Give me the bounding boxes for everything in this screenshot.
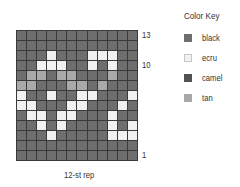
chart-cell [98,71,107,80]
chart-cell [17,91,26,100]
chart-cell [37,101,46,110]
chart-cell [67,121,76,130]
chart-cell [17,51,26,60]
chart-cell [88,111,97,120]
row-number-10: 10 [142,60,151,70]
chart-cell [37,91,46,100]
chart-cell [27,111,36,120]
chart-cell [118,71,127,80]
chart-cell [108,101,117,110]
chart-cell [118,91,127,100]
chart-cell [88,141,97,150]
chart-cell [88,151,97,160]
chart-cell [37,71,46,80]
chart-cell [108,41,117,50]
chart-cell [128,101,137,110]
chart-cell [57,111,66,120]
camel-swatch-icon [184,74,192,82]
chart-cell [57,31,66,40]
chart-cell [67,151,76,160]
chart-cell [67,101,76,110]
chart-cell [108,131,117,140]
chart-cell [37,111,46,120]
chart-cell [67,51,76,60]
chart-cell [118,41,127,50]
key-item-camel: camel [184,68,226,88]
chart-cell [27,101,36,110]
color-key-title: Color Key [184,10,220,21]
chart-cell [118,111,127,120]
chart-cell [118,61,127,70]
chart-cell [57,131,66,140]
chart-cell [98,121,107,130]
chart-cell [108,71,117,80]
chart-cell [27,91,36,100]
chart-cell [108,61,117,70]
chart-cell [67,111,76,120]
chart-cell [118,121,127,130]
chart-cell [77,81,86,90]
chart-cell [37,151,46,160]
chart-cell [77,121,86,130]
chart-cell [88,51,97,60]
chart-cell [77,141,86,150]
chart-cell [47,101,56,110]
chart-cell [67,131,76,140]
chart-cell [88,131,97,140]
chart-cell [128,91,137,100]
chart-cell [77,111,86,120]
chart-cell [77,61,86,70]
chart-cell [37,61,46,70]
key-item-tan: tan [184,88,226,108]
key-label: tan [202,93,213,103]
chart-cell [47,61,56,70]
chart-cell [27,71,36,80]
key-item-ecru: ecru [184,48,226,68]
chart-cell [47,121,56,130]
chart-cell [47,151,56,160]
chart-cell [128,81,137,90]
chart-cell [47,81,56,90]
chart-cell [77,41,86,50]
chart-cell [47,31,56,40]
chart-cell [98,41,107,50]
chart-cell [57,91,66,100]
chart-cell [47,71,56,80]
chart-cell [57,71,66,80]
chart-cell [98,141,107,150]
chart-cell [118,151,127,160]
chart-cell [67,41,76,50]
chart-cell [27,61,36,70]
chart-cell [98,81,107,90]
chart-cell [77,91,86,100]
chart-cell [108,31,117,40]
chart-cell [88,61,97,70]
chart-cell [57,81,66,90]
ecru-swatch-icon [184,54,192,62]
chart-cell [108,81,117,90]
chart-cell [118,81,127,90]
chart-cell [108,141,117,150]
chart-cell [128,41,137,50]
chart-cell [37,141,46,150]
chart-cell [77,131,86,140]
chart-cell [88,121,97,130]
chart-cell [17,81,26,90]
chart-cell [67,31,76,40]
chart-cell [17,151,26,160]
chart-cell [47,141,56,150]
chart-cell [77,71,86,80]
chart-cell [88,91,97,100]
chart-cell [128,111,137,120]
chart-cell [47,91,56,100]
chart-cell [118,131,127,140]
chart-cell [27,131,36,140]
chart-cell [37,131,46,140]
chart-cell [128,141,137,150]
chart-cell [27,31,36,40]
chart-cell [118,51,127,60]
chart-cell [17,111,26,120]
chart-cell [27,41,36,50]
chart-cell [108,91,117,100]
chart-cell [108,111,117,120]
